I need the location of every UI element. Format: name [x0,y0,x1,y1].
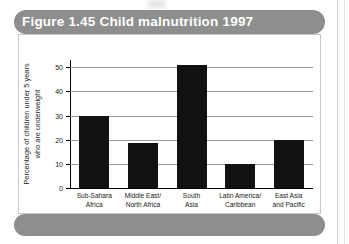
category-label-line: Middle East/ [119,192,168,201]
page-edge-line-outer [344,0,345,244]
category-label-line: South [167,192,216,201]
y-axis-line [70,60,71,188]
x-axis-category-label: Middle East/North Africa [119,192,168,209]
category-label-line: Caribbean [216,201,265,210]
y-axis-tick-label: 30 [55,112,63,119]
x-axis-category-label: SouthAsia [167,192,216,209]
x-axis-category-label: Sub-SaharaAfrica [70,192,119,209]
y-axis-title-line-2: who are underweight [33,54,44,194]
category-label-line: North Africa [119,201,168,210]
bar [79,116,109,188]
x-axis-category-label: East Asiaand Pacific [264,192,313,209]
y-axis-tick-mark [66,164,70,165]
category-label-line: Africa [70,201,119,210]
y-axis-tick-mark [66,188,70,189]
y-axis-tick-label: 40 [55,88,63,95]
y-axis-tick-label: 20 [55,136,63,143]
y-axis-tick-label: 10 [55,160,63,167]
bar [128,143,158,188]
page-edge-line [337,0,338,244]
category-label-line: Asia [167,201,216,210]
bar [177,65,207,188]
plot-area: 01020304050 Sub-SaharaAfricaMiddle East/… [70,60,313,188]
y-axis-tick-label: 50 [55,64,63,71]
y-axis-tick-mark [66,67,70,68]
y-axis-tick-mark [66,91,70,92]
category-label-line: East Asia [264,192,313,201]
scan-artifact [148,0,166,8]
figure-bottom-bar [14,214,325,236]
bar [225,164,255,188]
category-label-line: Sub-Sahara [70,192,119,201]
y-axis-tick-mark [66,116,70,117]
y-axis-title-line-1: Percentage of children under 5 years [22,54,33,194]
y-axis-tick-mark [66,140,70,141]
y-axis-tick-label: 0 [59,185,63,192]
figure-page: Figure 1.45 Child malnutrition 1997 Perc… [0,0,349,244]
bar [274,140,304,188]
category-label-line: Latin America/ [216,192,265,201]
y-axis-title: Percentage of children under 5 years who… [22,54,50,194]
category-label-line: and Pacific [264,201,313,210]
x-axis-line [70,188,313,189]
figure-title: Figure 1.45 Child malnutrition 1997 [22,12,253,32]
x-axis-category-label: Latin America/Caribbean [216,192,265,209]
